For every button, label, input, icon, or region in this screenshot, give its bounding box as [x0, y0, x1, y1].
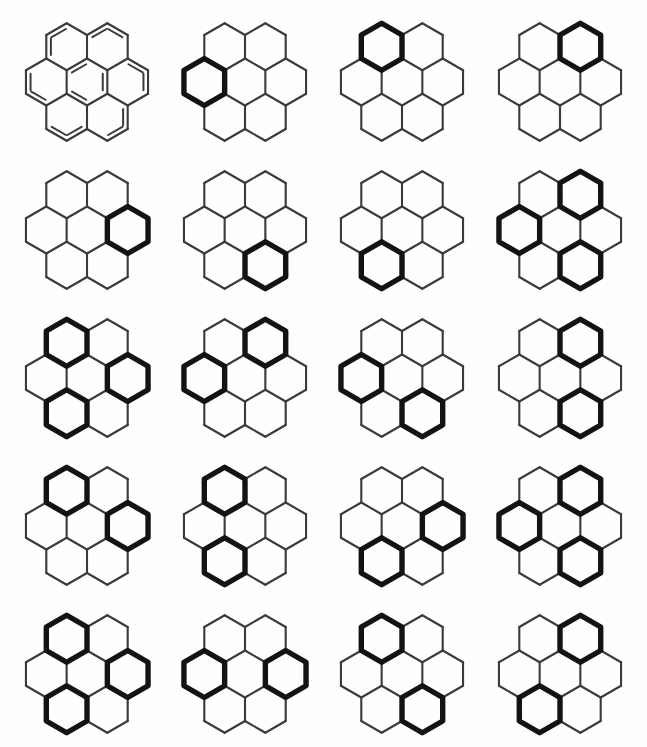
coronene-diagram	[171, 306, 319, 454]
bold-ring	[46, 467, 87, 514]
coronene-diagram	[328, 306, 476, 454]
bold-ring	[499, 207, 540, 254]
bold-ring	[402, 686, 443, 733]
structure-panel-16	[481, 454, 639, 602]
bold-ring	[362, 242, 403, 289]
structure-panel-5	[8, 158, 166, 306]
skeleton-bonds	[204, 615, 285, 733]
aromatic-sextet-rings	[362, 23, 403, 70]
structure-panel-4	[481, 10, 639, 158]
structure-panel-12	[481, 306, 639, 454]
structure-panel-3	[324, 10, 482, 158]
skeleton-bonds	[519, 171, 621, 289]
aromatic-sextet-rings	[519, 615, 600, 733]
figure-sheet	[0, 0, 647, 747]
panel-grid	[0, 0, 647, 747]
bold-ring	[560, 467, 601, 514]
bold-ring	[362, 538, 403, 585]
aromatic-sextet-rings	[362, 242, 403, 289]
coronene-diagram	[486, 306, 634, 454]
aromatic-sextet-rings	[499, 467, 601, 585]
coronene-diagram	[328, 454, 476, 602]
coronene-diagram	[486, 158, 634, 306]
bold-ring	[560, 390, 601, 437]
structure-panel-9	[8, 306, 166, 454]
bold-ring	[265, 651, 306, 698]
bold-ring	[107, 355, 148, 402]
coronene-diagram	[171, 10, 319, 158]
coronene-diagram	[486, 10, 634, 158]
skeleton-bonds	[519, 467, 621, 585]
bold-ring	[184, 355, 225, 402]
skeleton-bonds	[26, 467, 128, 585]
skeleton-bonds	[26, 319, 128, 437]
coronene-diagram	[13, 306, 161, 454]
bold-ring	[107, 503, 148, 550]
bold-ring	[423, 503, 464, 550]
bold-ring	[341, 355, 382, 402]
skeleton-bonds	[204, 23, 306, 141]
structure-panel-14	[166, 454, 324, 602]
structure-panel-17	[8, 602, 166, 747]
structure-panel-10	[166, 306, 324, 454]
structure-panel-6	[166, 158, 324, 306]
coronene-diagram	[171, 602, 319, 747]
bold-ring	[245, 319, 286, 366]
bold-ring	[46, 615, 87, 662]
coronene-diagram	[13, 10, 161, 158]
bold-ring	[362, 615, 403, 662]
aromatic-sextet-rings	[107, 207, 148, 254]
coronene-diagram	[328, 602, 476, 747]
structure-panel-19	[324, 602, 482, 747]
structure-panel-13	[8, 454, 166, 602]
skeleton-bonds	[204, 319, 306, 437]
bold-ring	[560, 615, 601, 662]
aromatic-sextet-rings	[184, 59, 225, 106]
bold-ring	[362, 23, 403, 70]
coronene-diagram	[13, 454, 161, 602]
bold-ring	[560, 23, 601, 70]
bold-ring	[560, 171, 601, 218]
bold-ring	[499, 503, 540, 550]
bold-ring	[46, 390, 87, 437]
bold-ring	[519, 686, 560, 733]
aromatic-sextet-rings	[560, 23, 601, 70]
bold-ring	[402, 390, 443, 437]
aromatic-sextet-rings	[499, 171, 601, 289]
structure-panel-2	[166, 10, 324, 158]
coronene-diagram	[328, 158, 476, 306]
structure-panel-20	[481, 602, 639, 747]
bold-ring	[245, 242, 286, 289]
coronene-diagram	[171, 454, 319, 602]
structure-panel-7	[324, 158, 482, 306]
skeleton-bonds	[362, 319, 464, 437]
structure-panel-1	[8, 10, 166, 158]
coronene-diagram	[328, 10, 476, 158]
bold-ring	[204, 538, 245, 585]
bold-ring	[46, 319, 87, 366]
skeleton-bonds	[26, 171, 128, 289]
coronene-diagram	[171, 158, 319, 306]
coronene-diagram	[486, 602, 634, 747]
coronene-diagram	[13, 158, 161, 306]
bold-ring	[560, 319, 601, 366]
bold-ring	[46, 686, 87, 733]
bold-ring	[184, 651, 225, 698]
aromatic-sextet-rings	[184, 651, 306, 698]
bold-ring	[107, 651, 148, 698]
structure-panel-11	[324, 306, 482, 454]
structure-panel-18	[166, 602, 324, 747]
aromatic-sextet-rings	[245, 242, 286, 289]
skeleton-bonds	[26, 615, 128, 733]
coronene-diagram	[13, 602, 161, 747]
aromatic-sextet-rings	[46, 615, 148, 733]
bold-ring	[184, 59, 225, 106]
aromatic-sextet-rings	[362, 615, 443, 733]
bold-ring	[204, 467, 245, 514]
skeleton-bonds	[341, 467, 443, 585]
bold-ring	[560, 242, 601, 289]
aromatic-sextet-rings	[46, 319, 148, 437]
coronene-diagram	[486, 454, 634, 602]
bold-ring	[107, 207, 148, 254]
bold-ring	[560, 538, 601, 585]
